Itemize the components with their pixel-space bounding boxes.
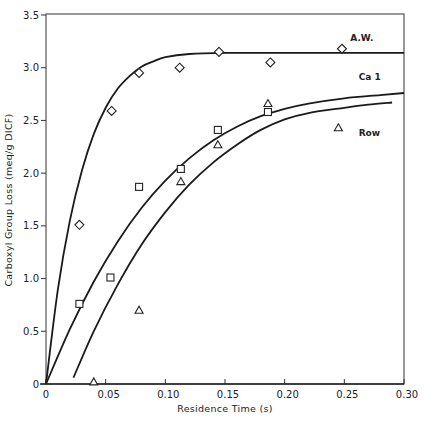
fit-curve-row xyxy=(73,103,392,378)
plot-border xyxy=(46,14,404,384)
y-tick-label: 0.5 xyxy=(23,326,39,337)
x-axis-title: Residence Time (s) xyxy=(177,403,273,414)
fit-curves xyxy=(46,53,404,384)
y-axis: 00.51.01.52.02.53.03.5 xyxy=(23,10,46,390)
x-tick-label: 0.10 xyxy=(157,389,179,400)
square-marker xyxy=(214,126,221,133)
y-axis-title: Carboxyl Group Loss (meq/g DICF) xyxy=(3,113,14,286)
y-tick-label: 1.0 xyxy=(23,273,39,284)
triangle-marker xyxy=(177,178,185,185)
fit-curve-a-w xyxy=(46,53,404,384)
square-marker xyxy=(136,183,143,190)
diamond-marker xyxy=(215,47,224,56)
diamond-marker xyxy=(75,220,84,229)
series-label: Ca 1 xyxy=(359,72,381,82)
fit-curve-ca-1 xyxy=(46,93,404,384)
plot-frame xyxy=(46,14,404,384)
square-marker xyxy=(177,165,184,172)
data-markers xyxy=(75,44,347,385)
square-marker xyxy=(264,108,271,115)
x-tick-label: 0.15 xyxy=(217,389,239,400)
diamond-marker xyxy=(337,44,346,53)
series-labels: A.W.Ca 1Row xyxy=(350,33,380,138)
y-tick-label: 1.5 xyxy=(23,220,39,231)
x-tick-label: 0.25 xyxy=(336,389,358,400)
y-tick-label: 3.0 xyxy=(23,62,39,73)
series-label: Row xyxy=(359,128,380,138)
square-marker xyxy=(107,274,114,281)
triangle-marker xyxy=(214,141,222,148)
x-tick-label: 0.05 xyxy=(98,389,120,400)
x-tick-label: 0 xyxy=(43,389,49,400)
diamond-marker xyxy=(175,63,184,72)
chart: 00.050.100.150.200.250.30 00.51.01.52.02… xyxy=(0,0,424,421)
triangle-marker xyxy=(135,306,143,313)
y-tick-label: 3.5 xyxy=(23,10,39,21)
triangle-marker xyxy=(334,124,342,131)
y-tick-label: 0 xyxy=(33,379,39,390)
series-label: A.W. xyxy=(350,33,373,43)
y-tick-label: 2.0 xyxy=(23,168,39,179)
x-tick-label: 0.20 xyxy=(277,389,299,400)
y-tick-label: 2.5 xyxy=(23,115,39,126)
diamond-marker xyxy=(266,58,275,67)
triangle-marker xyxy=(264,100,272,107)
x-tick-label: 0.30 xyxy=(396,389,418,400)
triangle-marker xyxy=(90,378,98,385)
square-marker xyxy=(76,300,83,307)
diamond-marker xyxy=(107,106,116,115)
